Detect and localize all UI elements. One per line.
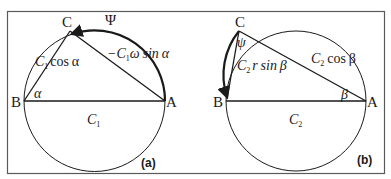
arc-psi-label-b: ψ [237, 35, 246, 50]
panel-label-b: (b) [357, 153, 372, 167]
figure-canvas: B A C Ψ α C1 C1cos α −C1ω sin α (a) B A … [0, 0, 391, 179]
panel-label-a: (a) [141, 156, 156, 170]
panel-b: B A C ψ β C2 C2r sin β C2cos β (b) [213, 14, 378, 171]
point-a-label-a: A [166, 94, 177, 110]
chord-ca-label-b: C2cos β [311, 51, 356, 68]
figure-frame [8, 12, 385, 174]
chord-bc-label-a: C1cos α [35, 54, 80, 71]
point-c-label-a: C [62, 14, 72, 30]
point-c-label-b: C [235, 14, 245, 30]
chord-ca-label-a: −C1ω sin α [107, 46, 170, 63]
panel-a: B A C Ψ α C1 C1cos α −C1ω sin α (a) [11, 12, 177, 172]
chord-ca-a [70, 31, 165, 101]
angle-alpha-label: α [34, 86, 42, 101]
chord-bc-label-b: C2r sin β [237, 58, 287, 75]
point-b-label-b: B [213, 94, 223, 110]
diameter-c2-label: C2 [289, 112, 302, 129]
angle-beta-label: β [340, 87, 348, 102]
point-a-label-b: A [367, 94, 378, 110]
diameter-c1-label: C1 [87, 112, 100, 129]
arc-psi-label-a: Ψ [105, 12, 117, 28]
point-b-label-a: B [11, 94, 21, 110]
